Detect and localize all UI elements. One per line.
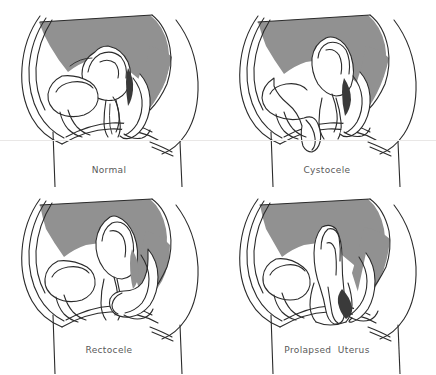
- thigh-fold2: [152, 147, 173, 156]
- buttock-outline: [162, 205, 198, 339]
- buttock-outline: [162, 20, 198, 154]
- panel-label-normal: Normal: [0, 165, 218, 175]
- thigh-fold2: [370, 147, 391, 156]
- panel-prolapsed-uterus: Prolapsed Uterus: [218, 187, 436, 374]
- vagina-canal-anterior: [101, 279, 106, 320]
- thigh-fold2: [370, 332, 391, 341]
- thigh-fold2: [152, 332, 173, 341]
- pelvic-prolapse-figure: Normal: [0, 0, 436, 375]
- panel-rectocele: Rectocele: [0, 187, 218, 374]
- buttock-outline: [380, 20, 416, 154]
- panel-normal: Normal: [0, 0, 218, 187]
- vagina-canal-anterior: [104, 100, 108, 137]
- vagina-canal-anterior: [310, 283, 316, 322]
- panel-cystocele: Cystocele: [218, 0, 436, 187]
- perineum-outline: [62, 312, 158, 327]
- buttock-outline: [380, 205, 416, 339]
- panel-label-rectocele: Rectocele: [0, 345, 218, 355]
- perineum-outline: [62, 129, 158, 144]
- panel-normal-illustration: [0, 0, 218, 187]
- panel-cystocele-illustration: [218, 0, 436, 187]
- panel-label-cystocele: Cystocele: [218, 165, 436, 175]
- panel-label-prolapsed-uterus: Prolapsed Uterus: [218, 345, 436, 355]
